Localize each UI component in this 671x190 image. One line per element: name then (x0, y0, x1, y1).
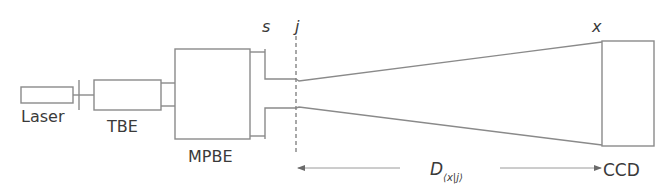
mpbe-box (175, 49, 250, 139)
s-plane-aperture-bottom (265, 108, 296, 139)
optical-setup-diagram: Laser TBE MPBE CCD s j x D ⟨x|j⟩ (0, 0, 671, 190)
distance-label-subscript: ⟨x|j⟩ (443, 172, 463, 184)
x-plane-label: x (591, 17, 602, 36)
beam-upper-edge (296, 42, 602, 81)
ccd-label: CCD (603, 160, 640, 180)
laser-label: Laser (21, 107, 65, 126)
tbe-box (94, 80, 161, 110)
mpbe-label: MPBE (188, 147, 233, 166)
laser-box (21, 87, 73, 103)
distance-label-main: D (430, 159, 443, 179)
ccd-box (602, 41, 654, 146)
beam-lower-edge (296, 107, 602, 145)
tbe-label: TBE (106, 117, 138, 136)
s-plane-aperture-top (265, 49, 296, 79)
s-plane-label: s (262, 17, 270, 36)
j-plane-label: j (293, 17, 300, 36)
